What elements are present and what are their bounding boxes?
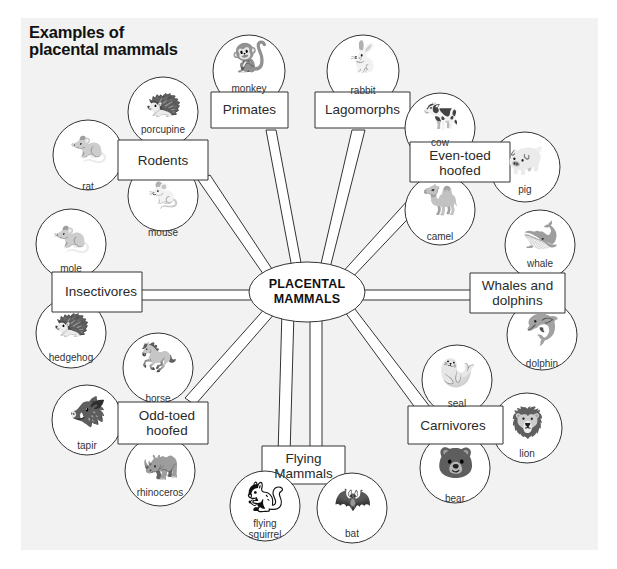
animal-label-camel: camel <box>415 231 465 242</box>
group-label-flying-line-1: Flying <box>262 451 345 466</box>
animal-label-horse: horse <box>133 393 183 404</box>
animal-label-dolphin: dolphin <box>517 358 567 369</box>
animal-label-rat: rat <box>63 181 113 192</box>
tapir-icon: 🐗 <box>62 397 112 427</box>
group-label-odd-toed-line-1: Odd-toed <box>122 408 212 423</box>
title-line-1: Examples of <box>29 24 178 41</box>
diagram-stage: Examples of placental mammals PLACENTAL … <box>0 0 617 569</box>
porcupine-icon: 🦔 <box>138 88 188 118</box>
animal-label-bear: bear <box>430 493 480 504</box>
group-label-whales-line-2: dolphins <box>470 293 565 308</box>
group-label-flying-mammals: Flying Mammals <box>262 451 345 481</box>
diagram-title: Examples of placental mammals <box>29 24 178 58</box>
group-label-whales-line-1: Whales and <box>470 278 565 293</box>
animal-label-flying-squirrel: flying squirrel <box>240 518 290 540</box>
pig-icon: 🐖 <box>500 145 550 175</box>
center-label: PLACENTAL MAMMALS <box>262 277 352 307</box>
group-label-even-toed-line-2: hoofed <box>410 163 510 178</box>
group-label-odd-toed-hoofed: Odd-toed hoofed <box>122 408 212 438</box>
animal-label-hedgehog: hedgehog <box>41 352 101 363</box>
lion-icon: 🦁 <box>502 408 552 438</box>
animal-label-lion: lion <box>507 448 547 459</box>
animal-label-pig: pig <box>505 184 545 195</box>
cow-icon: 🐄 <box>415 100 465 130</box>
group-label-even-toed-line-1: Even-toed <box>410 148 510 163</box>
group-label-primates: Primates <box>211 102 288 117</box>
rhinoceros-icon: 🦏 <box>135 450 185 480</box>
monkey-icon: 🐒 <box>224 42 274 72</box>
mole-icon: 🐀 <box>46 222 96 252</box>
group-label-carnivores: Carnivores <box>408 418 498 433</box>
group-label-odd-toed-line-2: hoofed <box>122 423 212 438</box>
flying-squirrel-line-2: squirrel <box>240 529 290 540</box>
bear-icon: 🐻 <box>430 448 480 478</box>
animal-label-monkey: monkey <box>219 83 279 94</box>
bat-icon: 🦇 <box>327 484 377 514</box>
group-label-even-toed-hoofed: Even-toed hoofed <box>410 148 510 178</box>
center-label-line-1: PLACENTAL <box>262 277 352 292</box>
group-label-flying-line-2: Mammals <box>262 466 345 481</box>
rat-icon: 🐀 <box>63 132 113 162</box>
animal-label-bat: bat <box>332 528 372 539</box>
center-label-line-2: MAMMALS <box>262 292 352 307</box>
whale-icon: 🐋 <box>515 220 565 250</box>
rabbit-icon: 🐇 <box>338 42 388 72</box>
animal-label-cow: cow <box>420 137 460 148</box>
title-line-2: placental mammals <box>29 41 178 58</box>
animal-label-rabbit: rabbit <box>333 85 393 96</box>
hedgehog-icon: 🦔 <box>46 308 96 338</box>
horse-icon: 🐎 <box>133 342 183 372</box>
seal-icon: 🦭 <box>432 358 482 388</box>
flying-squirrel-icon: 🐿 <box>240 482 290 512</box>
animal-label-tapir: tapir <box>62 440 112 451</box>
animal-label-mole: mole <box>46 263 96 274</box>
animal-label-mouse: mouse <box>138 227 188 238</box>
camel-icon: 🐪 <box>415 185 465 215</box>
animal-label-rhinoceros: rhinoceros <box>130 487 190 498</box>
mouse-icon: 🐁 <box>138 178 188 208</box>
animal-label-porcupine: porcupine <box>133 124 193 135</box>
group-label-lagomorphs: Lagomorphs <box>315 102 410 117</box>
animal-label-whale: whale <box>515 258 565 269</box>
group-label-whales-dolphins: Whales and dolphins <box>470 278 565 308</box>
group-label-rodents: Rodents <box>118 153 208 168</box>
group-label-insectivores: Insectivores <box>56 284 146 299</box>
dolphin-icon: 🐬 <box>517 315 567 345</box>
animal-label-seal: seal <box>432 398 482 409</box>
flying-squirrel-line-1: flying <box>240 518 290 529</box>
